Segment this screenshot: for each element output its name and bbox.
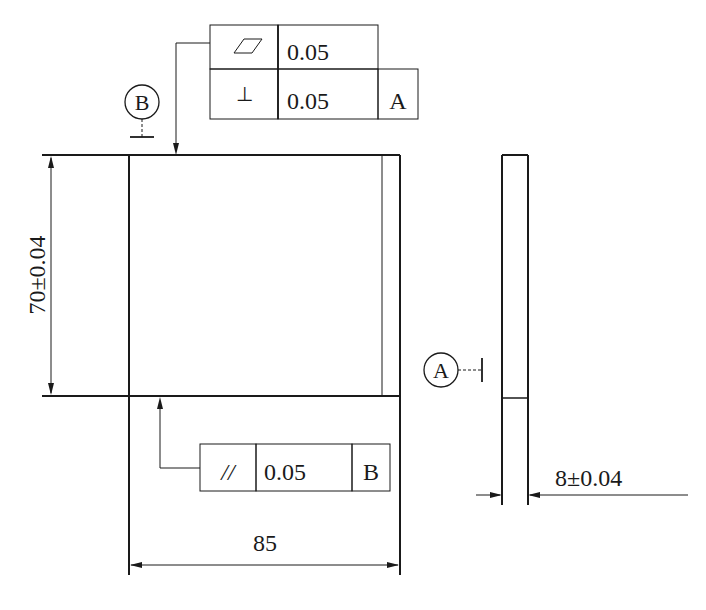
arrow-down-icon (173, 143, 179, 155)
perpendicularity-tolerance: 0.05 (287, 88, 329, 114)
arrow-right-icon (387, 562, 399, 568)
arrow-up-icon (157, 397, 163, 409)
parallelism-icon: // (219, 459, 237, 485)
flatness-tolerance: 0.05 (287, 39, 329, 65)
arrow-left-icon (528, 492, 540, 498)
perpendicularity-datum: A (389, 88, 407, 114)
parallelism-datum: B (363, 459, 379, 485)
engineering-drawing: 70±0.04 85 0.05 ⊥ 0.05 A B // 0.05 B A 8… (0, 0, 706, 610)
leader-line (160, 404, 200, 468)
side-view (502, 155, 528, 505)
datum-b-label: B (135, 90, 150, 115)
width-dimension (130, 562, 399, 568)
height-dimension-label: 70±0.04 (24, 235, 50, 314)
arrow-left-icon (130, 562, 142, 568)
datum-a-label: A (433, 358, 449, 383)
perpendicularity-icon: ⊥ (236, 83, 253, 105)
front-view (42, 155, 400, 575)
leader-line (176, 43, 210, 148)
width-dimension-label: 85 (253, 530, 277, 556)
thickness-dimension (476, 492, 688, 498)
arrow-right-icon (490, 492, 502, 498)
flatness-icon (234, 39, 262, 53)
arrow-down-icon (48, 383, 54, 395)
parallelism-tolerance: 0.05 (264, 459, 306, 485)
thickness-dimension-label: 8±0.04 (555, 465, 622, 491)
arrow-up-icon (48, 156, 54, 168)
